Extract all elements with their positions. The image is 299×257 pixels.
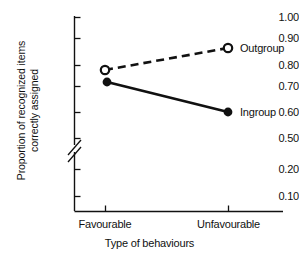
x-axis-ticks [106,206,229,212]
data-point-outgroup-favourable [101,66,109,74]
data-point-ingroup-unfavourable [224,108,233,117]
series-line-outgroup [105,48,228,70]
data-point-outgroup-unfavourable [224,44,232,52]
data-point-ingroup-favourable [103,78,112,87]
chart-canvas [0,0,299,257]
chart-figure: Proportion of recognized itemscorrectly … [0,0,299,257]
y-axis-ticks [75,18,81,197]
series-line-ingroup [107,82,228,112]
